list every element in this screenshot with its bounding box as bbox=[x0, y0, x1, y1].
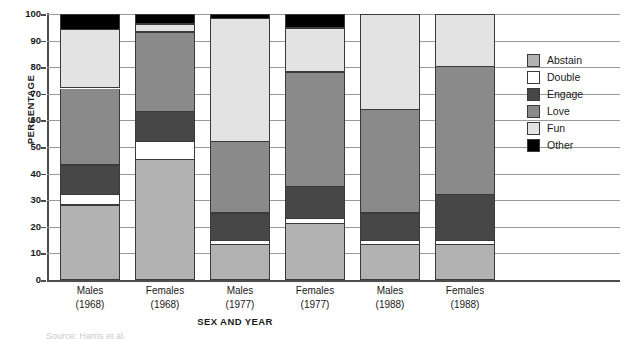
segment-divider bbox=[285, 186, 345, 187]
x-tick-sex: Females bbox=[122, 284, 208, 298]
segment-divider bbox=[360, 212, 420, 213]
bar-segment-love bbox=[360, 110, 420, 214]
y-axis-tick-label: 20 bbox=[13, 222, 41, 232]
bar-segment-love bbox=[435, 67, 495, 195]
y-axis-tick bbox=[41, 280, 46, 282]
bar-segment-abstain bbox=[210, 245, 270, 280]
legend-item-love[interactable]: Love bbox=[527, 103, 627, 120]
bar-segment-fun bbox=[60, 30, 120, 89]
segment-divider bbox=[135, 159, 195, 160]
legend-item-abstain[interactable]: Abstain bbox=[527, 52, 627, 69]
bar-segment-engage bbox=[210, 214, 270, 242]
segment-divider bbox=[285, 71, 345, 72]
x-axis-line bbox=[47, 280, 620, 282]
segment-divider bbox=[60, 204, 120, 205]
y-axis-tick-labels: 0102030405060708090100 bbox=[8, 14, 41, 280]
segment-divider bbox=[210, 141, 270, 142]
segment-divider bbox=[60, 194, 120, 195]
bar-females-1977[interactable] bbox=[285, 14, 345, 280]
bar-segment-love bbox=[285, 73, 345, 187]
legend-item-engage[interactable]: Engage bbox=[527, 86, 627, 103]
bar-females-1988[interactable] bbox=[435, 14, 495, 280]
segment-divider bbox=[135, 31, 195, 32]
bar-segment-fun bbox=[360, 14, 420, 110]
segment-divider bbox=[60, 87, 120, 88]
legend-label: Other bbox=[547, 140, 573, 151]
legend-label: Double bbox=[547, 72, 580, 83]
x-axis-tick-label: Males(1968) bbox=[47, 284, 133, 311]
segment-divider bbox=[210, 212, 270, 213]
bar-segment-double bbox=[135, 142, 195, 161]
bar-segment-abstain bbox=[435, 245, 495, 280]
x-axis-tick-label: Males(1988) bbox=[347, 284, 433, 311]
bar-segment-abstain bbox=[60, 206, 120, 280]
y-axis-tick bbox=[41, 147, 46, 149]
bar-males-1988[interactable] bbox=[360, 14, 420, 280]
legend-swatch-abstain bbox=[527, 54, 540, 67]
clipped-source-caption: Source: Harris et al. bbox=[46, 331, 126, 339]
chart-legend: AbstainDoubleEngageLoveFunOther bbox=[527, 52, 627, 154]
y-axis-tick bbox=[41, 14, 46, 16]
segment-divider bbox=[360, 109, 420, 110]
bar-segment-love bbox=[210, 142, 270, 214]
y-axis-tick-label: 10 bbox=[13, 248, 41, 258]
x-tick-sex: Males bbox=[47, 284, 133, 298]
y-axis-tick-label: 30 bbox=[13, 195, 41, 205]
segment-divider bbox=[435, 194, 495, 195]
bar-segment-fun bbox=[285, 29, 345, 73]
x-tick-year: (1977) bbox=[272, 298, 358, 312]
segment-divider bbox=[285, 218, 345, 219]
y-axis-tick bbox=[41, 41, 46, 43]
y-axis-tick bbox=[41, 174, 46, 176]
x-tick-year: (1977) bbox=[197, 298, 283, 312]
bar-males-1977[interactable] bbox=[210, 14, 270, 280]
segment-divider bbox=[60, 164, 120, 165]
bar-segment-abstain bbox=[135, 160, 195, 280]
x-axis-tick-label: Females(1988) bbox=[422, 284, 508, 311]
x-axis-title: SEX AND YEAR bbox=[0, 316, 470, 327]
y-axis-tick-label: 0 bbox=[13, 275, 41, 285]
bar-segment-other bbox=[60, 14, 120, 30]
x-tick-sex: Males bbox=[347, 284, 433, 298]
bar-males-1968[interactable] bbox=[60, 14, 120, 280]
bar-segment-love bbox=[135, 33, 195, 113]
y-axis-tick-label: 60 bbox=[13, 115, 41, 125]
x-axis-tick-label: Males(1977) bbox=[197, 284, 283, 311]
bar-segment-engage bbox=[435, 195, 495, 242]
legend-item-other[interactable]: Other bbox=[527, 137, 627, 154]
y-axis-tick-label: 70 bbox=[13, 89, 41, 99]
x-axis-tick-label: Females(1977) bbox=[272, 284, 358, 311]
segment-divider bbox=[60, 29, 120, 30]
legend-item-fun[interactable]: Fun bbox=[527, 120, 627, 137]
bar-segment-fun bbox=[210, 19, 270, 141]
segment-divider bbox=[135, 141, 195, 142]
legend-item-double[interactable]: Double bbox=[527, 69, 627, 86]
segment-divider bbox=[435, 244, 495, 245]
legend-swatch-fun bbox=[527, 122, 540, 135]
y-axis-tick bbox=[41, 67, 46, 69]
segment-divider bbox=[210, 18, 270, 19]
bar-segment-engage bbox=[285, 187, 345, 219]
bar-segment-engage bbox=[135, 112, 195, 141]
segment-divider bbox=[360, 240, 420, 241]
legend-swatch-other bbox=[527, 139, 540, 152]
segment-divider bbox=[135, 23, 195, 24]
y-axis-tick-label: 80 bbox=[13, 62, 41, 72]
legend-label: Fun bbox=[547, 123, 565, 134]
y-axis-tick bbox=[41, 94, 46, 96]
y-axis-tick-label: 50 bbox=[13, 142, 41, 152]
y-axis-tick-label: 90 bbox=[13, 36, 41, 46]
segment-divider bbox=[285, 223, 345, 224]
y-axis-tick bbox=[41, 227, 46, 229]
y-axis-tick bbox=[41, 200, 46, 202]
segment-divider bbox=[135, 111, 195, 112]
segment-divider bbox=[285, 27, 345, 28]
y-axis-tick-label: 100 bbox=[13, 9, 41, 19]
x-tick-year: (1988) bbox=[422, 298, 508, 312]
x-tick-year: (1968) bbox=[122, 298, 208, 312]
bar-segment-engage bbox=[360, 214, 420, 242]
x-tick-year: (1968) bbox=[47, 298, 133, 312]
segment-divider bbox=[360, 244, 420, 245]
bar-females-1968[interactable] bbox=[135, 14, 195, 280]
x-tick-sex: Females bbox=[272, 284, 358, 298]
